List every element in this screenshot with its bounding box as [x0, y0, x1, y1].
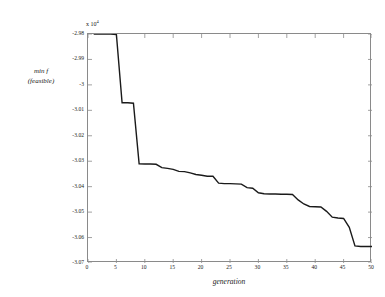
x-tick-label: 50 — [368, 264, 374, 270]
y-tick-label: -3.03 — [72, 157, 84, 163]
x-tick-label: 35 — [283, 264, 289, 270]
y-tick-label: -2.98 — [72, 30, 84, 36]
y-tick-label: -2.99 — [72, 55, 84, 61]
y-tick-label: -3.02 — [72, 132, 84, 138]
y-tick-label: -3 — [79, 81, 84, 87]
x-tick-label: 10 — [141, 264, 147, 270]
exponent-base: x 10 — [86, 21, 97, 27]
y-tick-label: -3.07 — [72, 259, 84, 265]
exponent-power: 4 — [97, 19, 99, 24]
data-line-svg — [88, 34, 372, 263]
min-f-feasible-line — [94, 34, 372, 246]
chart-figure: min f (feasible) x 104 -2.98-2.99-3-3.01… — [0, 0, 385, 297]
x-tick-label: 5 — [114, 264, 117, 270]
x-tick-label: 25 — [226, 264, 232, 270]
y-tick-label: -3.05 — [72, 208, 84, 214]
x-axis-label: generation — [87, 277, 371, 286]
y-axis-exponent-multiplier: x 104 — [86, 19, 99, 27]
x-tick-label: 15 — [169, 264, 175, 270]
x-tick-label: 0 — [86, 264, 89, 270]
x-tick-label: 40 — [311, 264, 317, 270]
x-axis-tick-labels: 05101520253035404550 — [87, 264, 371, 276]
x-tick-label: 45 — [340, 264, 346, 270]
y-tick-label: -3.01 — [72, 106, 84, 112]
x-tick-label: 20 — [198, 264, 204, 270]
axis-tick-marks — [88, 34, 372, 263]
y-tick-label: -3.06 — [72, 234, 84, 240]
x-tick-label: 30 — [255, 264, 261, 270]
plot-area — [87, 33, 371, 262]
y-tick-label: -3.04 — [72, 183, 84, 189]
y-axis-tick-labels: -2.98-2.99-3-3.01-3.02-3.03-3.04-3.05-3.… — [58, 33, 84, 262]
